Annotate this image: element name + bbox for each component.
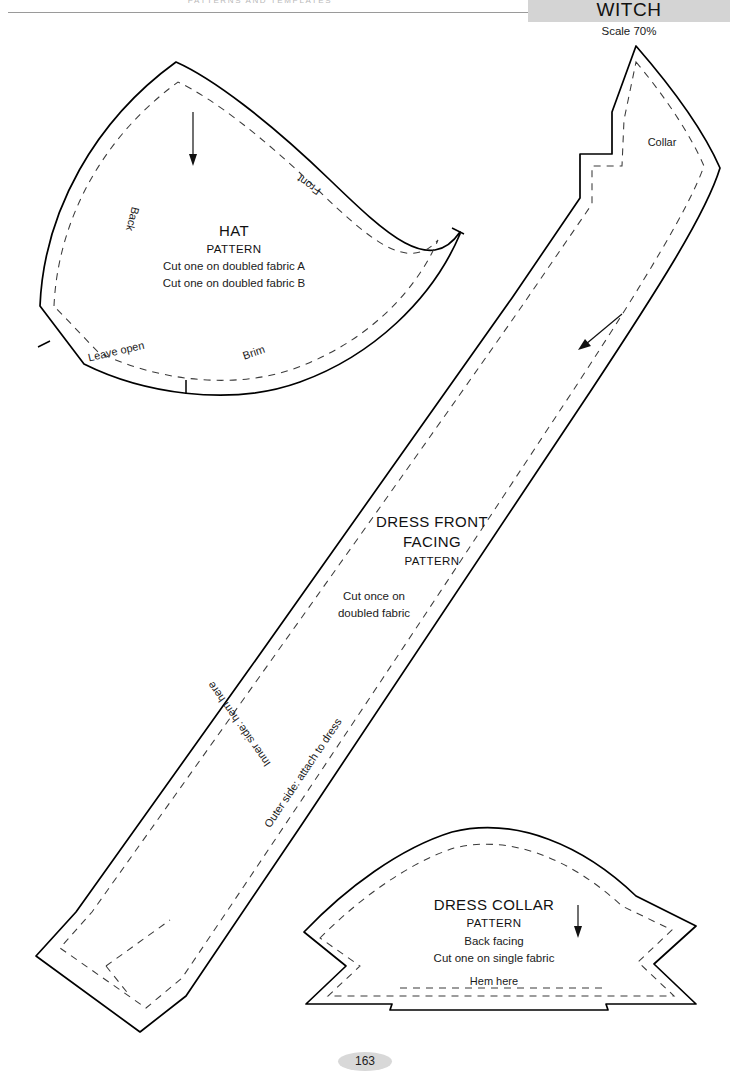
dress-collar-instruction-1: Back facing bbox=[464, 935, 523, 947]
dress-front-facing-title-line1: DRESS FRONT bbox=[376, 513, 488, 530]
hat-instruction-b: Cut one on doubled fabric B bbox=[163, 277, 306, 289]
pattern-drawing: HAT PATTERN Cut one on doubled fabric A … bbox=[0, 0, 730, 1076]
hat-notch-left bbox=[38, 341, 50, 347]
hat-instruction-a: Cut one on doubled fabric A bbox=[163, 260, 305, 272]
page-number: 163 bbox=[338, 1052, 392, 1071]
hat-subtitle: PATTERN bbox=[207, 243, 262, 255]
dress-collar-title: DRESS COLLAR bbox=[434, 896, 555, 913]
hat-piece: HAT PATTERN Cut one on doubled fabric A … bbox=[38, 62, 464, 395]
hat-title: HAT bbox=[219, 222, 249, 239]
dress-collar-subtitle: PATTERN bbox=[467, 917, 522, 929]
dress-front-facing-subtitle: PATTERN bbox=[405, 555, 460, 567]
hat-cut-line bbox=[40, 62, 460, 395]
dress-collar-piece: DRESS COLLAR PATTERN Back facing Cut one… bbox=[304, 828, 696, 1010]
dress-front-facing-instruction-1: Cut once on bbox=[343, 590, 405, 602]
pattern-sheet-page: PATTERNS AND TEMPLATES WITCH Scale 70% H… bbox=[0, 0, 730, 1076]
dress-collar-instruction-2: Cut one on single fabric bbox=[434, 952, 555, 964]
dress-collar-hem-label: Hem here bbox=[470, 975, 518, 987]
dress-front-facing-instruction-2: doubled fabric bbox=[338, 607, 410, 619]
dress-front-facing-collar-label: Collar bbox=[648, 136, 677, 148]
dress-front-facing-title-line2: FACING bbox=[403, 533, 461, 550]
hat-notch-right bbox=[452, 228, 464, 234]
